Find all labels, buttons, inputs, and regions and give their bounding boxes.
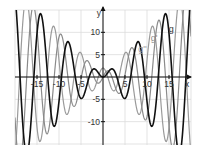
x-tick-label: -10 <box>53 79 66 89</box>
x-tick-label: -5 <box>77 79 85 89</box>
y-axis-arrow-icon <box>101 6 106 11</box>
y-tick-label: -10 <box>88 117 101 127</box>
curve-label: g <box>169 24 174 34</box>
x-tick-label: 10 <box>142 79 152 89</box>
curve-label: g'' <box>138 44 147 54</box>
y-tick-label: 10 <box>91 27 101 37</box>
y-tick-label: 5 <box>95 50 100 60</box>
plot-canvas: -15-10-551015105-5-10xy g''g'g <box>0 0 203 156</box>
curve-label: g' <box>151 33 158 43</box>
x-tick-label: 5 <box>123 79 128 89</box>
function-plot: -15-10-551015105-5-10xy g''g'g <box>0 0 203 156</box>
x-axis-label: x <box>185 79 190 89</box>
x-tick-label: -15 <box>31 79 44 89</box>
y-axis-label: y <box>97 8 102 18</box>
y-tick-label: -5 <box>92 94 100 104</box>
x-tick-label: 15 <box>164 79 174 89</box>
